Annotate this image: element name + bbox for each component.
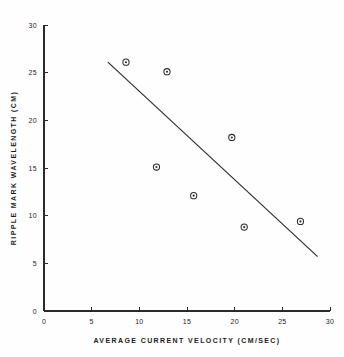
y-axis-title: RIPPLE MARK WAVELENGTH (CM) xyxy=(10,91,18,245)
y-tick-label: 15 xyxy=(29,165,37,172)
x-axis-ticks: 051015202530 xyxy=(42,307,334,325)
data-point-marker xyxy=(229,134,235,140)
data-point-marker xyxy=(297,218,303,224)
marker-center-dot xyxy=(125,61,127,63)
x-tick-label: 20 xyxy=(230,318,238,325)
y-tick-label: 30 xyxy=(29,22,37,29)
x-tick-label: 30 xyxy=(326,318,334,325)
data-point-marker xyxy=(164,69,170,75)
marker-center-dot xyxy=(231,136,233,138)
trend-line xyxy=(108,62,318,256)
data-point-marker xyxy=(241,224,247,230)
scatter-plot: 051015202530 051015202530 AVERAGE CURREN… xyxy=(0,0,344,357)
marker-center-dot xyxy=(155,166,157,168)
marker-center-dot xyxy=(166,71,168,73)
x-tick-label: 0 xyxy=(42,318,46,325)
x-tick-label: 10 xyxy=(135,318,143,325)
marker-center-dot xyxy=(299,220,301,222)
marker-center-dot xyxy=(193,195,195,197)
x-axis-title: AVERAGE CURRENT VELOCITY (CM/SEC) xyxy=(93,337,280,345)
y-tick-label: 0 xyxy=(33,308,37,315)
y-tick-label: 25 xyxy=(29,69,37,76)
y-tick-label: 10 xyxy=(29,212,37,219)
y-tick-label: 20 xyxy=(29,117,37,124)
axes-group xyxy=(44,25,330,311)
y-axis-ticks: 051015202530 xyxy=(29,22,48,315)
data-point-marker xyxy=(123,59,129,65)
marker-center-dot xyxy=(243,226,245,228)
trend-line-group xyxy=(108,62,318,256)
x-tick-label: 25 xyxy=(278,318,286,325)
data-point-marker xyxy=(153,164,159,170)
x-tick-label: 15 xyxy=(183,318,191,325)
data-point-marker xyxy=(191,193,197,199)
figure-canvas: 051015202530 051015202530 AVERAGE CURREN… xyxy=(0,0,344,357)
y-tick-label: 5 xyxy=(33,260,37,267)
x-tick-label: 5 xyxy=(90,318,94,325)
data-points-group xyxy=(123,59,304,230)
